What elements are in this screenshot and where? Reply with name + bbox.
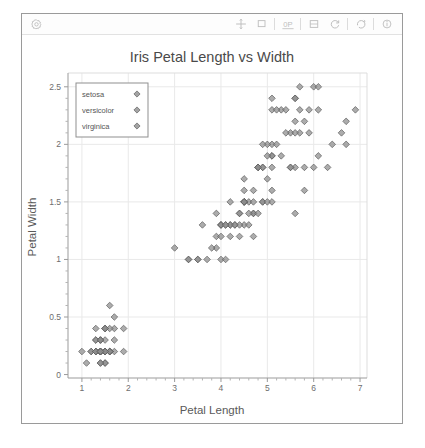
y-axis-label: Petal Width xyxy=(26,198,38,257)
render-view-window: 0P xyxy=(0,0,425,448)
x-axis-label: Petal Length xyxy=(180,404,245,416)
toolbar-separator xyxy=(373,18,374,30)
chart-legend[interactable]: setosaversicolorvirginica xyxy=(76,83,148,137)
svg-text:1: 1 xyxy=(80,383,85,393)
svg-text:0: 0 xyxy=(56,370,61,380)
svg-text:3: 3 xyxy=(172,383,177,393)
toolbar-separator xyxy=(274,18,275,30)
toolbar-separator xyxy=(300,18,301,30)
svg-text:0P: 0P xyxy=(283,19,292,28)
svg-text:2.5: 2.5 xyxy=(49,82,61,92)
legend-item-setosa: setosa xyxy=(82,90,105,99)
svg-text:6: 6 xyxy=(311,383,316,393)
rotate-icon[interactable] xyxy=(351,16,370,33)
move-crosshair-icon[interactable] xyxy=(231,16,250,33)
svg-text:5: 5 xyxy=(265,383,270,393)
chart-view-panel: 0P xyxy=(21,13,403,424)
scatter-plot-svg: Iris Petal Length vs Width 00.511.522.5 … xyxy=(22,35,402,423)
chart-canvas[interactable]: Iris Petal Length vs Width 00.511.522.5 … xyxy=(22,35,402,423)
reset-camera-icon[interactable] xyxy=(325,16,344,33)
svg-text:2: 2 xyxy=(56,139,61,149)
legend-item-versicolor: versicolor xyxy=(82,106,115,115)
view-toolbar: 0P xyxy=(22,14,402,35)
y-axis: 00.511.522.5 xyxy=(49,73,68,380)
render-view-options-icon[interactable] xyxy=(27,16,46,33)
svg-text:2: 2 xyxy=(126,383,131,393)
chart-title: Iris Petal Length vs Width xyxy=(130,49,294,65)
zero-p-icon[interactable]: 0P xyxy=(278,16,297,33)
svg-text:1.5: 1.5 xyxy=(49,197,61,207)
svg-text:4: 4 xyxy=(219,383,224,393)
toolbar-separator xyxy=(347,18,348,30)
select-rectangle-icon[interactable] xyxy=(252,16,271,33)
svg-text:7: 7 xyxy=(358,383,363,393)
toolbar-right-group: 0P xyxy=(231,16,402,33)
svg-text:0.5: 0.5 xyxy=(49,312,61,322)
x-axis: 1234567 xyxy=(68,378,367,393)
svg-text:1: 1 xyxy=(56,254,61,264)
split-horizontal-icon[interactable] xyxy=(304,16,323,33)
info-icon[interactable] xyxy=(377,16,396,33)
legend-item-virginica: virginica xyxy=(82,122,110,131)
toolbar-left-group xyxy=(22,16,46,33)
